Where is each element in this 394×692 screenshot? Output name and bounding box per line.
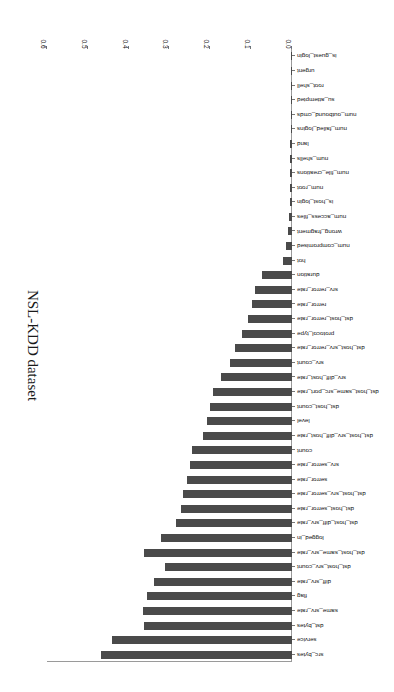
bar — [291, 96, 292, 104]
value-tick-label: 0.3 — [163, 39, 170, 48]
category-tickmark — [292, 70, 295, 71]
category-label: dst_host_srv_count — [297, 564, 351, 570]
category-label: diff_srv_rate — [297, 579, 331, 585]
category-tickmark — [292, 347, 295, 348]
category-tickmark — [292, 566, 295, 567]
bar-row: srv_count — [47, 356, 292, 370]
category-tickmark — [292, 625, 295, 626]
category-label: dst_host_diff_srv_rate — [297, 520, 358, 526]
category-tickmark — [292, 449, 295, 450]
category-label: flag — [297, 593, 307, 599]
bar-row: srv_serror_rate — [47, 458, 292, 472]
bar-row: dst_host_count — [47, 400, 292, 414]
category-tickmark — [292, 552, 295, 553]
bar — [187, 476, 292, 484]
value-tick-label: 0.0 — [285, 39, 292, 48]
bar — [147, 592, 292, 600]
bar-row: dst_host_rerror_rate — [47, 312, 292, 326]
bar-row: duration — [47, 268, 292, 282]
category-tickmark — [292, 654, 295, 655]
category-tickmark — [292, 464, 295, 465]
category-tickmark — [292, 260, 295, 261]
category-tickmark — [292, 493, 295, 494]
bar-row: num_access_files — [47, 210, 292, 224]
category-label: logged_in — [297, 535, 324, 541]
bar — [235, 344, 292, 352]
category-tickmark — [292, 581, 295, 582]
category-tickmark — [292, 522, 295, 523]
bar — [291, 82, 292, 90]
bar — [291, 125, 292, 133]
bar — [290, 198, 292, 206]
category-label: hot — [297, 258, 306, 264]
category-tickmark — [292, 114, 295, 115]
bar-row: srv_rerror_rate — [47, 283, 292, 297]
bar-row: num_root — [47, 181, 292, 195]
bar-row: urgent — [47, 64, 292, 78]
bar-row: srv_diff_host_rate — [47, 371, 292, 385]
category-label: serror_rate — [297, 477, 327, 483]
bar — [252, 300, 292, 308]
bar-row: num_shells — [47, 152, 292, 166]
category-tickmark — [292, 172, 295, 173]
bar — [207, 417, 292, 425]
category-label: num_file_creations — [297, 170, 349, 176]
bar — [183, 490, 292, 498]
category-tickmark — [292, 362, 295, 363]
category-label: urgent — [297, 68, 315, 74]
bar-row: dst_host_srv_diff_host_rate — [47, 429, 292, 443]
value-tick-label: 0.1 — [244, 39, 251, 48]
category-label: dst_host_count — [297, 404, 339, 410]
category-label: land — [297, 141, 309, 147]
bar — [242, 330, 292, 338]
bar — [290, 155, 292, 163]
plot-area: src_bytesservicedst_bytessame_srv_ratefl… — [47, 49, 292, 662]
bar — [291, 111, 292, 119]
category-label: dst_host_srv_diff_host_rate — [297, 433, 373, 439]
bar-row: num_file_creations — [47, 166, 292, 180]
bar-row: dst_host_same_src_port_rate — [47, 385, 292, 399]
category-tickmark — [292, 85, 295, 86]
value-tick-label: 0.4 — [122, 39, 129, 48]
category-tickmark — [292, 639, 295, 640]
category-tickmark — [292, 435, 295, 436]
category-tickmark — [292, 376, 295, 377]
bar — [176, 519, 292, 527]
category-tickmark — [292, 333, 295, 334]
bar-row: dst_host_srv_count — [47, 560, 292, 574]
category-label: dst_host_serror_rate — [297, 506, 354, 512]
bar — [190, 461, 292, 469]
bar — [161, 534, 292, 542]
bar — [288, 228, 292, 236]
category-tickmark — [292, 158, 295, 159]
value-tick-label: 0.6 — [40, 39, 47, 48]
value-tick-label: 0.2 — [203, 39, 210, 48]
bar-series: src_bytesservicedst_bytessame_srv_ratefl… — [47, 49, 292, 662]
category-tickmark — [292, 55, 295, 56]
category-tickmark — [292, 231, 295, 232]
category-label: src_bytes — [297, 652, 323, 658]
category-label: duration — [297, 272, 319, 278]
category-label: num_root — [297, 185, 323, 191]
category-label: srv_rerror_rate — [297, 287, 338, 293]
category-label: dst_bytes — [297, 622, 323, 628]
bar — [213, 388, 292, 396]
bar-row: num_failed_logins — [47, 122, 292, 136]
bar — [289, 213, 292, 221]
bar — [210, 403, 292, 411]
category-label: service — [297, 637, 317, 643]
category-tickmark — [292, 537, 295, 538]
category-label: srv_count — [297, 360, 324, 366]
bar-row: flag — [47, 589, 292, 603]
category-label: num_shells — [297, 155, 328, 161]
bar — [290, 184, 292, 192]
bar-chart-figure: NSL-KDD dataset src_bytesservicedst_byte… — [0, 0, 394, 692]
category-tickmark — [292, 289, 295, 290]
category-label: protocol_type — [297, 331, 334, 337]
category-label: count — [297, 447, 312, 453]
category-label: level — [297, 418, 310, 424]
category-tickmark — [292, 479, 295, 480]
bar — [290, 169, 292, 177]
bar — [144, 549, 292, 557]
bar-row: dst_bytes — [47, 619, 292, 633]
